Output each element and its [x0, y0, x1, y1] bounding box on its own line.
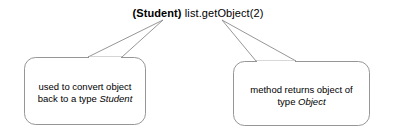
- right-callout-tail: [222, 20, 296, 61]
- left-callout-tail: [88, 20, 163, 57]
- left-callout-line-2: back to a type Student: [24, 93, 146, 105]
- left-callout-type-term: Student: [100, 93, 133, 104]
- code-call-token: list.getObject(2): [182, 7, 264, 19]
- right-callout-line-1: method returns object of: [233, 84, 370, 96]
- left-callout-text: used to convert object back to a type St…: [24, 81, 146, 105]
- right-callout-line-2: type Object: [233, 96, 370, 108]
- right-callout-text: method returns object of type Object: [233, 84, 370, 108]
- callout-diagram: (Student) list.getObject(2) used to conv…: [0, 0, 396, 138]
- callout-shapes: [0, 0, 396, 138]
- left-callout-line-1: used to convert object: [24, 81, 146, 93]
- code-cast-token: (Student): [132, 7, 181, 19]
- code-expression: (Student) list.getObject(2): [0, 7, 396, 20]
- right-callout-type-term: Object: [298, 96, 325, 107]
- right-callout-line-2-prefix: type: [277, 96, 298, 107]
- left-callout-line-2-prefix: back to a type: [38, 93, 100, 104]
